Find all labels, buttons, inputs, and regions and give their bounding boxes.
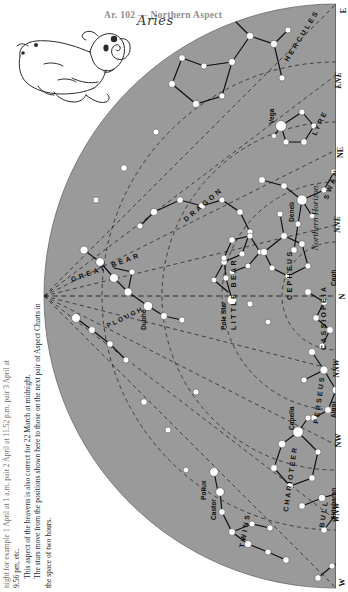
horizon-label: Northern Horizon. — [309, 183, 319, 250]
star-label-algol: Algol — [330, 401, 336, 418]
star-label-castor: Castor — [210, 499, 217, 520]
constellation-label-cepheus: CEPHEUS — [286, 249, 293, 300]
star-chart: HERCULES LYRE SWAN DRAGON GREAT BEAR PLO… — [36, 0, 336, 592]
compass-label-nne: NNE — [333, 216, 342, 233]
constellation-label-cassiopeia: CASSIOPEIA — [320, 285, 327, 350]
compass-label-e: E — [339, 8, 348, 13]
star-label-caph: Caph — [330, 270, 336, 286]
compass-label-w: W — [338, 579, 347, 587]
text-line-3: This aspect of the heavens is also corre… — [23, 168, 33, 588]
compass-label-ne: NE — [336, 147, 345, 158]
star-label-deneb: Deneb — [288, 202, 295, 222]
text-line-2: 9.56 pm, etc. — [12, 168, 22, 588]
text-line-1: night for example 1 April at 1 a.m. pair… — [2, 168, 12, 588]
star-label-dubhe: Dubhe — [140, 309, 147, 330]
compass-label-n: N — [339, 294, 348, 300]
compass-label-nw: NW — [335, 434, 344, 448]
star-label-vega: Vega — [268, 108, 276, 124]
star-label-capella: Capella — [288, 406, 296, 430]
constellation-label-little-bear: LITTLE BEAR — [230, 258, 237, 330]
compass-label-wnw: WNW — [331, 502, 340, 522]
page-root: Ar. 102 — Northern Aspect Aries — [0, 0, 348, 592]
star-label-pollux: Pollux — [200, 480, 207, 500]
star-label-pole-star: Pole Star — [220, 301, 227, 330]
compass-label-ene: ENE — [333, 72, 342, 88]
compass-label-nnw: NNW — [332, 359, 341, 378]
